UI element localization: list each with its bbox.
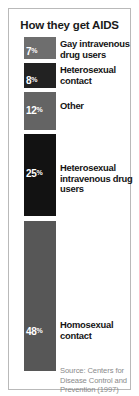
page-title: How they get AIDS: [9, 19, 130, 31]
aids-transmission-infographic: How they get AIDS 7% 8% 12% 25% 48%: [0, 0, 139, 396]
source-attribution: Source: Centers for Disease Control and …: [60, 366, 138, 395]
segment-percent-label: 8%: [26, 75, 37, 86]
bar-segment-homosexual-contact[interactable]: 48%: [24, 221, 56, 371]
segment-percent-label: 7%: [26, 46, 37, 57]
bar-segment-other[interactable]: 12%: [24, 92, 56, 130]
segment-percent-label: 12%: [26, 105, 42, 116]
stacked-bar-column: 7% 8% 12% 25% 48%: [24, 37, 56, 371]
segment-label-gay-iv-drug-users: Gay intravenous drug users: [60, 39, 139, 60]
bar-segment-heterosexual-contact[interactable]: 8%: [24, 63, 56, 88]
chart-card: How they get AIDS 7% 8% 12% 25% 48%: [8, 8, 131, 390]
segment-label-heterosexual-contact: Heterosexual contact: [60, 65, 139, 86]
bar-segment-heterosexual-iv-drug-users[interactable]: 25%: [24, 134, 56, 216]
segment-label-other: Other: [60, 101, 84, 112]
bar-segment-gay-iv-drug-users[interactable]: 7%: [24, 37, 56, 59]
segment-label-heterosexual-iv-drug-users: Heterosexual intravenous drug users: [60, 163, 139, 195]
segment-label-homosexual-contact: Homosexual contact: [60, 320, 139, 341]
segment-percent-label: 48%: [26, 326, 42, 337]
segment-percent-label: 25%: [26, 168, 42, 179]
